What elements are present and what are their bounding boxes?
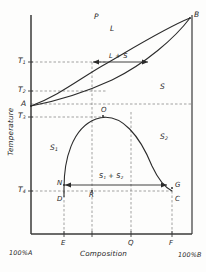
point-label-O: O xyxy=(101,107,107,114)
point-label-G: G xyxy=(175,182,181,189)
region-label-S: S xyxy=(160,83,165,91)
y-tick-label-T2: T2 xyxy=(18,86,26,94)
phase-diagram-figure: T1 T2 T3 T4 Temperature E Q F Compositio… xyxy=(0,0,206,272)
marker-G xyxy=(171,187,173,189)
marker-B xyxy=(189,17,191,19)
x-tick-label-F: F xyxy=(169,240,173,247)
point-label-A: A xyxy=(21,100,26,108)
x-corner-label-left: 100%A xyxy=(9,250,33,256)
x-axis-title: Composition xyxy=(80,250,127,257)
region-label-P: P xyxy=(94,13,99,21)
y-tick-label-T4: T4 xyxy=(18,186,26,194)
diagram-canvas xyxy=(0,0,206,272)
point-label-N: N xyxy=(57,180,62,187)
point-label-D: D xyxy=(57,196,63,203)
y-tick-label-T1: T1 xyxy=(18,57,26,65)
marker-A xyxy=(30,105,32,107)
marker-N xyxy=(63,184,65,186)
point-label-R: R xyxy=(89,192,94,199)
point-label-C: C xyxy=(175,196,180,203)
x-tick-label-E: E xyxy=(61,240,66,247)
point-label-B: B xyxy=(194,11,199,19)
region-label-L: L xyxy=(110,25,114,33)
x-tick-label-Q: Q xyxy=(128,240,134,247)
tie-line-solvus xyxy=(65,182,167,187)
axes xyxy=(31,15,192,234)
region-label-S1: S1 xyxy=(50,144,58,152)
y-tick-label-T3: T3 xyxy=(18,112,26,120)
region-label-S2: S2 xyxy=(160,133,168,141)
x-corner-label-right: 100%B xyxy=(178,252,202,258)
region-label-S1-plus-S2: S1 + S2 xyxy=(99,173,123,180)
marker-O xyxy=(102,115,104,117)
region-label-liquid-plus-solid: L + S xyxy=(109,53,128,60)
y-axis-title: Temperature xyxy=(7,97,14,167)
